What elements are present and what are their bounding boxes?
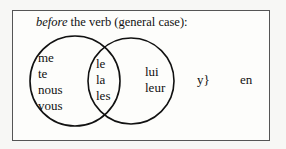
pronoun-vous: vous [38, 98, 63, 114]
pronoun-en: en [240, 72, 252, 88]
pronoun-te: te [38, 66, 63, 82]
pronoun-lui: lui [145, 64, 165, 80]
pronoun-la: la [96, 72, 110, 88]
pronoun-les: les [96, 88, 110, 104]
left-only-pronouns: me te nous vous [38, 50, 63, 114]
pronoun-leur: leur [145, 80, 165, 96]
pronoun-le: le [96, 56, 110, 72]
intersection-pronouns: le la les [96, 56, 110, 104]
pronoun-nous: nous [38, 82, 63, 98]
pronoun-me: me [38, 50, 63, 66]
pronoun-y: y} [197, 72, 210, 88]
right-only-pronouns: lui leur [145, 64, 165, 96]
